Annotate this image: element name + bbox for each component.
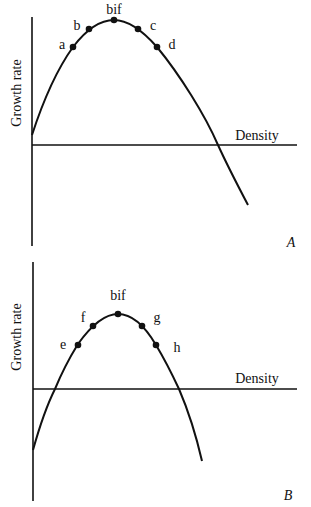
x-axis-label-b: Density xyxy=(235,371,279,386)
label-bif-b: bif xyxy=(110,288,126,303)
point-h xyxy=(153,342,160,349)
point-bif-a xyxy=(111,17,118,24)
point-b xyxy=(86,26,93,33)
growth-curve-b xyxy=(33,314,202,461)
panel-a: bif a b c d Density Growth rate A xyxy=(9,2,297,250)
y-axis-label-a: Growth rate xyxy=(9,59,24,126)
panel-label-b: B xyxy=(284,488,293,503)
label-h: h xyxy=(174,340,181,355)
label-bif-a: bif xyxy=(106,2,122,17)
label-d: d xyxy=(169,37,176,52)
point-e xyxy=(75,342,82,349)
label-a: a xyxy=(59,37,66,52)
point-f xyxy=(90,323,97,330)
point-c xyxy=(135,26,142,33)
panel-b: bif e f g h Density Growth rate B xyxy=(9,262,297,503)
point-bif-b xyxy=(115,311,122,318)
label-b: b xyxy=(74,18,81,33)
point-d xyxy=(154,44,161,51)
label-c: c xyxy=(150,18,156,33)
point-a xyxy=(70,44,77,51)
figure: bif a b c d Density Growth rate A bif e … xyxy=(0,0,311,507)
y-axis-label-b: Growth rate xyxy=(9,303,24,370)
x-axis-label-a: Density xyxy=(235,128,279,143)
point-g xyxy=(139,323,146,330)
label-f: f xyxy=(81,310,86,325)
panel-label-a: A xyxy=(286,235,296,250)
label-g: g xyxy=(154,310,161,325)
label-e: e xyxy=(60,337,66,352)
